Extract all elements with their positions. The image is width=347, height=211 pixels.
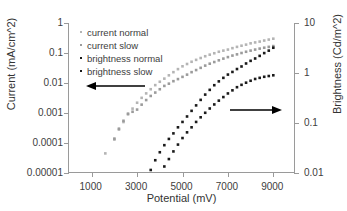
data-point [177,126,180,129]
legend-item: current normal [76,26,196,38]
x-axis-tick-label: 1000 [71,182,111,192]
legend-marker-dot [80,57,82,59]
legend-item: brightness normal [76,52,196,64]
legend-marker-dot [80,70,82,72]
data-point [118,127,121,130]
legend-marker-icon [76,66,85,77]
data-point [131,110,134,113]
data-point [218,80,221,83]
legend-label: current slow [85,40,138,51]
chart-figure: 10.10.010.0010.00010.00001 1010.10.01 10… [0,0,347,211]
y-axis-right-tick [294,23,299,24]
data-point [267,46,270,49]
data-point [199,67,202,70]
y-axis-right-tick [294,173,299,174]
data-point [236,86,239,89]
data-point [240,52,243,55]
data-point [145,99,148,102]
data-point [272,46,275,49]
legend-label: brightness slow [85,66,152,77]
data-point [208,53,211,56]
data-point [104,152,107,155]
data-point [263,39,266,42]
legend-marker-icon [76,40,85,51]
data-point [199,99,202,102]
x-axis-tick [183,172,184,177]
data-point [208,107,211,110]
data-point [204,111,207,114]
data-point [113,137,116,140]
data-point [154,91,157,94]
data-point [236,68,239,71]
y-axis-right-tick [294,73,299,74]
legend: current normalcurrent slowbrightness nor… [76,26,196,78]
data-point [240,44,243,47]
data-point [195,104,198,107]
data-point [136,108,139,111]
y-axis-right-title: Brightness (Cd/m^2) [331,0,343,129]
data-point [208,62,211,65]
data-point [227,73,230,76]
data-point [231,47,234,50]
data-point [222,96,225,99]
data-point [249,42,252,45]
data-point [154,159,157,162]
y-axis-left-title: Current (mA/cm^2) [5,0,17,129]
x-axis-tick-label: 9000 [252,182,292,192]
legend-marker-dot [80,44,82,46]
data-point [140,97,143,100]
data-point [204,64,207,67]
x-axis-tick [228,172,229,177]
x-axis-tick [273,172,274,177]
y-axis-left-tick [64,173,69,174]
y-axis-left-tick [64,143,69,144]
x-axis-tick-label: 3000 [116,182,156,192]
data-point [213,103,216,106]
data-point [204,93,207,96]
data-point [236,46,239,49]
data-point [231,71,234,74]
data-point [140,103,143,106]
right-axis-arrow-icon [230,102,284,118]
data-point [168,158,171,161]
data-point [181,121,184,124]
data-point [149,169,152,172]
data-point [213,84,216,87]
data-point [136,101,139,104]
data-point [168,138,171,141]
data-point [222,77,225,80]
data-point [245,81,248,84]
data-point [190,126,193,129]
data-point [267,38,270,41]
legend-label: brightness normal [85,53,163,64]
data-point [186,131,189,134]
data-point [127,112,130,115]
data-point [258,40,261,43]
data-point [218,50,221,53]
data-point [172,132,175,135]
legend-marker-icon [76,27,85,38]
data-point [254,48,257,51]
data-point [267,49,270,52]
data-point [258,55,261,58]
series-brightness-slow [163,74,275,168]
data-point [172,80,175,83]
data-point [227,56,230,59]
x-axis-tick-label: 7000 [207,182,247,192]
x-axis-tick-label: 5000 [162,182,202,192]
data-point [227,48,230,51]
data-point [208,89,211,92]
data-point [258,47,261,50]
data-point [236,53,239,56]
data-point [245,62,248,65]
y-axis-left-tick [64,53,69,54]
legend-item: current slow [76,39,196,51]
data-point [168,82,171,85]
data-point [149,88,152,91]
data-point [254,57,257,60]
data-point [213,61,216,64]
data-point [249,49,252,52]
data-point [177,78,180,81]
data-point [263,46,266,49]
data-point [258,77,261,80]
